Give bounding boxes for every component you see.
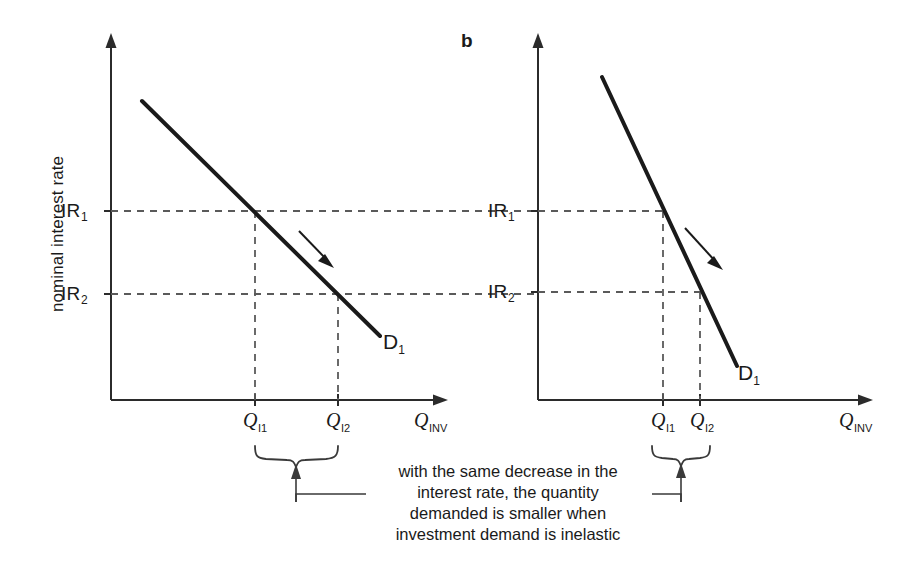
- caption-line-4: investment demand is inelastic: [368, 524, 648, 545]
- panel-b-label-x-axis-subscript: INV: [854, 422, 872, 434]
- panel-a-brace-arrow-head: [291, 464, 301, 479]
- panel-a-brace-shape: [255, 446, 338, 467]
- panel-b-y-axis-arrowhead: [533, 33, 544, 48]
- panel-a-guides: [111, 211, 540, 400]
- panel-a-label-x-axis: QINV: [414, 410, 447, 430]
- panel-a-caption-connector: [296, 494, 366, 502]
- panel-b-brace-arrow-head: [676, 463, 686, 478]
- panel-b-label-qi1-subscript: I1: [666, 422, 675, 434]
- panel-a-label-demand-curve-subscript: 1: [398, 343, 405, 357]
- panel-b-label-ir1: IR1: [488, 201, 514, 220]
- panel-a-label-qi2: QI2: [326, 410, 350, 430]
- panel-a-label-qi2-subscript: I2: [341, 422, 350, 434]
- panel-b-label-ir1-subscript: 1: [508, 210, 515, 224]
- panel-b-label-qi2: QI2: [690, 410, 714, 430]
- caption-line-3: demanded is smaller when: [368, 503, 648, 524]
- panel-b-label-x-axis: QINV: [839, 410, 872, 430]
- panel-b-label-ir2-subscript: 2: [508, 291, 515, 305]
- panel-b-label-ir2: IR2: [488, 282, 514, 301]
- panel-a-movement-arrow-head: [318, 254, 334, 268]
- panel-a-label-x-axis-subscript: INV: [429, 422, 447, 434]
- panel-a-label-qi1-subscript: I1: [258, 422, 267, 434]
- panel-b-label-demand-curve-subscript: 1: [753, 374, 760, 388]
- panel-b-label-qi2-subscript: I2: [705, 422, 714, 434]
- panel-b-letter: b: [461, 31, 473, 50]
- panel-a-label-qi1: QI1: [243, 410, 267, 430]
- panel-b-caption-connector: [652, 494, 681, 502]
- figure-caption: with the same decrease in the interest r…: [368, 461, 648, 545]
- panel-a-label-ir1: IR1: [61, 201, 87, 220]
- panel-b-x-axis-arrowhead: [858, 395, 873, 406]
- panel-a-label-ir2: IR2: [61, 284, 87, 303]
- panel-a-label-ir2-subscript: 2: [81, 293, 88, 307]
- panel-a-movement-arrow-shaft: [299, 231, 327, 260]
- investment-demand-figure: nominal interest rate IR1 IR2 QI1 QI2 QI…: [0, 0, 917, 561]
- panel-a-demand-curve: [142, 101, 380, 336]
- panel-b-movement-arrow-shaft: [685, 228, 716, 262]
- caption-line-2: interest rate, the quantity: [368, 482, 648, 503]
- panel-b-movement-arrow-head: [707, 256, 723, 270]
- panel-b-label-qi1: QI1: [651, 410, 675, 430]
- panel-b-label-demand-curve: D1: [738, 362, 760, 383]
- panel-a-label-demand-curve: D1: [383, 331, 405, 352]
- panel-b-quantity-brace: [652, 446, 710, 502]
- panel-b-demand-curve: [602, 77, 737, 366]
- panel-a-label-ir1-subscript: 1: [81, 210, 88, 224]
- panel-a-quantity-brace: [255, 446, 366, 502]
- panel-b-axes: [531, 33, 873, 406]
- panel-a-x-axis-arrowhead: [433, 395, 448, 406]
- caption-line-1: with the same decrease in the: [368, 461, 648, 482]
- panel-a-y-axis-arrowhead: [106, 33, 117, 48]
